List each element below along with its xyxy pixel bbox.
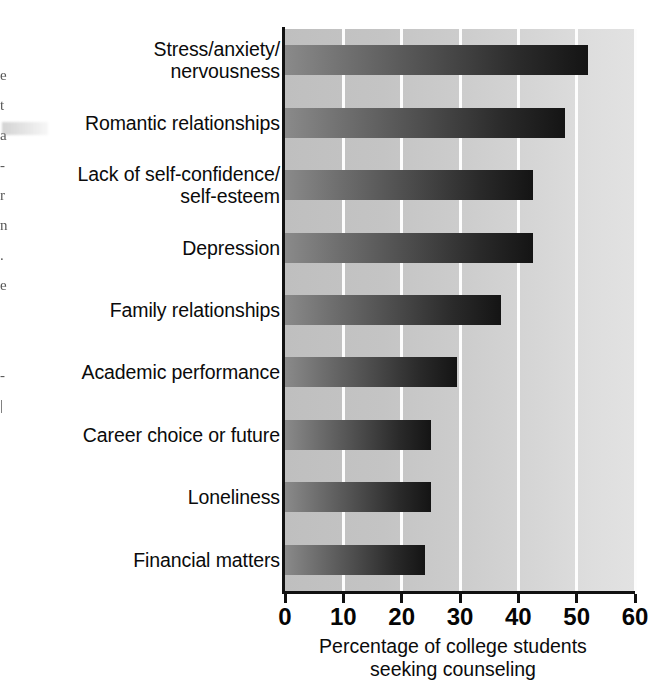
- bar: [285, 482, 431, 512]
- x-tick-20: [400, 594, 403, 603]
- bar: [285, 170, 533, 200]
- x-tick-label: 0: [265, 603, 305, 631]
- bar: [285, 420, 431, 450]
- y-axis-line: [282, 27, 285, 593]
- category-label: Family relationships: [8, 299, 280, 321]
- x-tick-label: 30: [440, 603, 480, 631]
- category-label: Career choice or future: [8, 424, 280, 446]
- category-label: Stress/anxiety/ nervousness: [8, 38, 280, 82]
- category-label: Loneliness: [8, 486, 280, 508]
- category-label-column: Stress/anxiety/ nervousnessRomantic rela…: [8, 29, 280, 591]
- gridline-60: [634, 29, 637, 591]
- bar: [285, 545, 425, 575]
- bar: [285, 295, 501, 325]
- bar: [285, 45, 588, 75]
- category-label: Lack of self-confidence/ self-esteem: [8, 163, 280, 207]
- category-label: Depression: [8, 237, 280, 259]
- x-tick-60: [634, 594, 637, 603]
- x-tick-30: [459, 594, 462, 603]
- bar: [285, 357, 457, 387]
- x-tick-label: 40: [498, 603, 538, 631]
- x-tick-40: [517, 594, 520, 603]
- category-label: Financial matters: [8, 549, 280, 571]
- x-tick-0: [284, 594, 287, 603]
- x-axis-title: Percentage of college students seeking c…: [240, 635, 666, 681]
- category-label: Academic performance: [8, 361, 280, 383]
- plot-area: [285, 29, 635, 591]
- x-tick-label: 60: [615, 603, 655, 631]
- x-tick-10: [342, 594, 345, 603]
- gridline-50: [575, 29, 578, 591]
- bar-chart-figure: e t a - r n . e - | Stress/anxiety/ nerv…: [0, 0, 666, 689]
- x-tick-label: 20: [382, 603, 422, 631]
- x-tick-50: [575, 594, 578, 603]
- x-tick-label: 50: [557, 603, 597, 631]
- bar: [285, 108, 565, 138]
- category-label: Romantic relationships: [8, 112, 280, 134]
- bar: [285, 233, 533, 263]
- x-tick-label: 10: [323, 603, 363, 631]
